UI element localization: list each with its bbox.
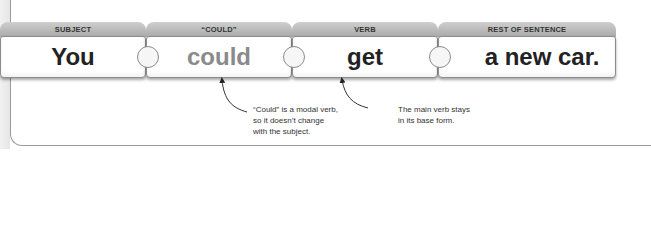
annotation-line: “Could” is a modal verb, — [253, 104, 338, 115]
annotation-verb: The main verb stays in its base form. — [398, 104, 470, 126]
annotation-line: in its base form. — [398, 115, 470, 126]
annotation-line: with the subject. — [253, 126, 338, 137]
annotation-could: “Could” is a modal verb, so it doesn’t c… — [253, 104, 338, 137]
annotation-line: so it doesn’t change — [253, 115, 338, 126]
annotation-line: The main verb stays — [398, 104, 470, 115]
